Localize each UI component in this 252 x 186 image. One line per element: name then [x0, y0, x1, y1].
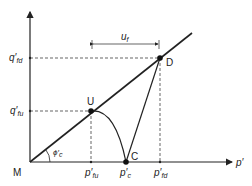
angle-arc [46, 150, 50, 163]
x-axis-label: p′ [235, 157, 245, 168]
angle-label: ϕ′c [53, 148, 63, 158]
x-tick-pc: p′c [119, 167, 131, 179]
point-C [123, 159, 129, 165]
tick-pfd [159, 161, 161, 163]
tick-qfu [29, 110, 31, 112]
x-tick-pfd: p′fd [153, 167, 168, 179]
diagram-canvas: M p′ U C D q′fd q′fu p′fu p′c p′fd ϕ′c u… [0, 0, 252, 186]
uf-label: uf [121, 31, 130, 43]
tick-qfd [29, 57, 31, 59]
label-D: D [166, 57, 173, 68]
undrained-path [91, 111, 126, 162]
critical-state-line [30, 33, 192, 162]
x-tick-pfu: p′fu [84, 167, 98, 179]
tick-pfu [90, 161, 92, 163]
y-tick-qfu: q′fu [10, 105, 23, 117]
point-D [157, 55, 163, 61]
label-C: C [131, 151, 138, 162]
origin-label: M [13, 167, 21, 178]
y-tick-qfd: q′fd [9, 52, 23, 64]
label-U: U [87, 96, 94, 107]
point-U [88, 108, 94, 114]
drained-path [126, 58, 160, 162]
